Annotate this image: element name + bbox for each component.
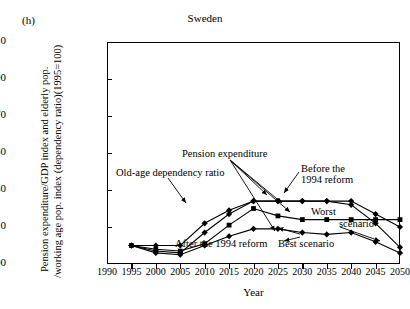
- x-tick-mark: [327, 264, 328, 269]
- y-tick-label: 190: [0, 71, 6, 83]
- annotation-old-age-dependency-ratio: Old-age dependency ratio: [116, 167, 224, 179]
- y-tick-label: 210: [0, 34, 6, 46]
- chart-figure: (h) Sweden Pension expenditure/GDP index…: [0, 0, 410, 309]
- y-tick-mark: [107, 153, 112, 154]
- annotation-before-reform-line1: Before the: [301, 163, 345, 175]
- x-tick-label: 2050: [390, 266, 410, 277]
- x-tick-label: 1990: [97, 266, 117, 277]
- annotation-after-reform: After the 1994 reform: [175, 238, 267, 250]
- y-tick-mark: [107, 116, 112, 117]
- x-tick-mark: [254, 264, 255, 269]
- x-tick-mark: [180, 264, 181, 269]
- y-tick-label: 110: [0, 219, 6, 231]
- x-tick-mark: [229, 264, 230, 269]
- y-tick-label: 130: [0, 182, 6, 194]
- y-tick-label: 150: [0, 145, 6, 157]
- x-tick-mark: [376, 264, 377, 269]
- annotation-pension-expenditure: Pension expenditure: [182, 148, 267, 160]
- x-tick-mark: [131, 264, 132, 269]
- x-tick-mark: [205, 264, 206, 269]
- chart-title: Sweden: [0, 12, 410, 24]
- y-axis-label-line2: /working age pop. index (dependency rati…: [52, 28, 68, 278]
- x-axis-label: Year: [107, 286, 400, 298]
- x-tick-mark: [302, 264, 303, 269]
- x-tick-mark: [156, 264, 157, 269]
- y-tick-label: 90: [0, 256, 6, 268]
- annotation-worst: Worst: [311, 206, 336, 218]
- annotation-before-reform-line2: 1994 reform: [301, 174, 353, 186]
- x-tick-mark: [351, 264, 352, 269]
- y-tick-mark: [107, 190, 112, 191]
- annotation-scenario: scenario: [339, 218, 374, 230]
- y-tick-label: 170: [0, 108, 6, 120]
- y-tick-mark: [107, 227, 112, 228]
- y-tick-mark: [107, 79, 112, 80]
- x-tick-mark: [278, 264, 279, 269]
- annotation-best-scenario: Best scenario: [278, 238, 334, 250]
